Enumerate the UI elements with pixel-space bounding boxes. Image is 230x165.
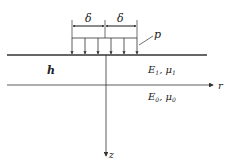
delta-right-label: δ	[117, 12, 124, 25]
delta-left-label: δ	[85, 12, 92, 25]
layer1-properties: E1, μ1	[147, 64, 176, 76]
thickness-label: h	[47, 64, 55, 77]
pressure-label: p	[154, 28, 161, 41]
pressure-leader	[139, 36, 153, 45]
r-axis-label: r	[218, 80, 224, 91]
layered-half-space-diagram: δ δ p r z h E1, μ1 E0, μ0	[0, 0, 230, 165]
layer0-properties: E0, μ0	[147, 91, 176, 103]
dimension-delta	[72, 20, 137, 38]
load-arrows	[72, 38, 137, 54]
z-axis-label: z	[108, 150, 114, 160]
